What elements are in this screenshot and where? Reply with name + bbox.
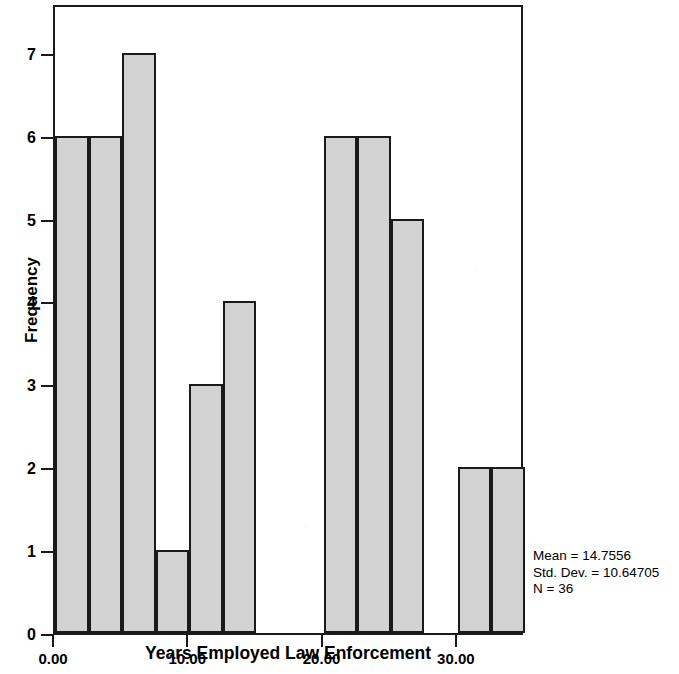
stat-n: N = 36 bbox=[533, 581, 659, 598]
y-axis-tick-mark bbox=[41, 302, 53, 304]
histogram-bar bbox=[357, 136, 391, 633]
stat-std-dev: Std. Dev. = 10.64705 bbox=[533, 565, 659, 582]
histogram-bar bbox=[491, 467, 525, 633]
statistics-annotation: Mean = 14.7556 Std. Dev. = 10.64705 N = … bbox=[533, 548, 659, 598]
y-axis-tick-mark bbox=[41, 54, 53, 56]
histogram-figure: Frequency 01234567 0.0010.0020.0030.00 Y… bbox=[0, 0, 679, 674]
histogram-bar bbox=[89, 136, 123, 633]
bars-layer bbox=[55, 7, 521, 633]
histogram-bar bbox=[122, 53, 156, 633]
y-axis-tick-label: 3 bbox=[0, 377, 36, 395]
histogram-bar bbox=[391, 219, 425, 633]
histogram-bar bbox=[55, 136, 89, 633]
y-axis-tick-mark bbox=[41, 468, 53, 470]
y-axis-tick-label: 0 bbox=[0, 626, 36, 644]
y-axis-tick-mark bbox=[41, 220, 53, 222]
y-axis-tick-mark bbox=[41, 137, 53, 139]
y-axis-tick-label: 6 bbox=[0, 129, 36, 147]
plot-area bbox=[53, 5, 523, 635]
y-axis-tick-label: 1 bbox=[0, 543, 36, 561]
y-axis-tick-mark bbox=[41, 385, 53, 387]
y-axis-tick-label: 2 bbox=[0, 460, 36, 478]
histogram-bar bbox=[189, 384, 223, 633]
x-axis-title: Years Employed Law Enforcement bbox=[53, 643, 523, 664]
y-axis-tick-mark bbox=[41, 551, 53, 553]
histogram-bar bbox=[458, 467, 492, 633]
y-axis-tick-label: 4 bbox=[0, 294, 36, 312]
stat-mean: Mean = 14.7556 bbox=[533, 548, 659, 565]
histogram-bar bbox=[223, 301, 257, 633]
histogram-bar bbox=[324, 136, 358, 633]
y-axis-tick-label: 7 bbox=[0, 46, 36, 64]
histogram-bar bbox=[156, 550, 190, 633]
y-axis-tick-label: 5 bbox=[0, 212, 36, 230]
